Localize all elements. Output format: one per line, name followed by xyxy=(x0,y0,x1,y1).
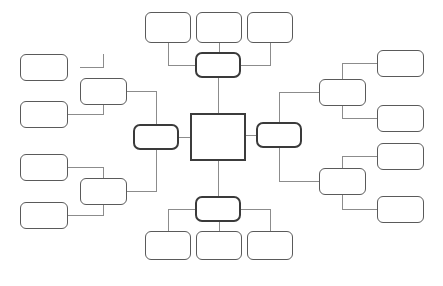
node-leaf-right-upper-2[interactable] xyxy=(377,105,424,132)
node-leaf-left-upper-1[interactable] xyxy=(20,54,68,81)
connector-branch-left-lower-to-leaf-left-lower-2 xyxy=(68,205,103,215)
node-hub-top[interactable] xyxy=(195,52,241,78)
node-branch-left-upper[interactable] xyxy=(80,78,127,105)
connector-branch-right-upper-to-leaf-right-upper-1 xyxy=(342,63,377,79)
concept-map-canvas xyxy=(0,0,443,286)
node-leaf-bottom-3[interactable] xyxy=(247,231,293,260)
node-hub-left[interactable] xyxy=(133,124,179,150)
node-leaf-top-3[interactable] xyxy=(247,12,293,43)
node-leaf-right-upper-1[interactable] xyxy=(377,50,424,77)
connector-hub-top-to-leaf-top-3 xyxy=(241,43,270,65)
connector-hub-top-to-leaf-top-1 xyxy=(168,43,195,65)
connector-branch-right-upper-to-leaf-right-upper-2 xyxy=(342,106,377,118)
connector-hub-right-to-branch-right-upper xyxy=(279,92,319,122)
node-leaf-top-1[interactable] xyxy=(145,12,191,43)
node-leaf-left-upper-2[interactable] xyxy=(20,101,68,128)
node-branch-right-upper[interactable] xyxy=(319,79,366,106)
node-leaf-bottom-2[interactable] xyxy=(196,231,242,260)
connector-branch-right-lower-to-leaf-right-lower-2 xyxy=(342,195,377,209)
node-branch-right-lower[interactable] xyxy=(319,168,366,195)
connector-hub-bottom-to-leaf-bottom-3 xyxy=(241,209,270,231)
node-leaf-left-lower-2[interactable] xyxy=(20,202,68,229)
connector-hub-right-to-branch-right-lower xyxy=(279,147,319,181)
node-leaf-left-lower-1[interactable] xyxy=(20,154,68,181)
connector-branch-right-lower-to-leaf-right-lower-1 xyxy=(342,156,377,168)
node-leaf-right-lower-1[interactable] xyxy=(377,143,424,170)
node-branch-left-lower[interactable] xyxy=(80,178,127,205)
node-leaf-top-2[interactable] xyxy=(196,12,242,43)
node-hub-right[interactable] xyxy=(256,122,302,148)
node-hub-bottom[interactable] xyxy=(195,196,241,222)
connector-branch-left-lower-to-leaf-left-lower-1 xyxy=(68,167,103,178)
connector-hub-left-to-branch-left-upper xyxy=(127,91,156,124)
connector-branch-left-upper-to-leaf-left-upper-1 xyxy=(80,54,103,67)
connector-hub-bottom-to-leaf-bottom-1 xyxy=(168,209,195,231)
connector-branch-left-upper-to-leaf-left-upper-2 xyxy=(68,105,103,114)
node-leaf-bottom-1[interactable] xyxy=(145,231,191,260)
connector-hub-left-to-branch-left-lower xyxy=(127,150,156,191)
node-center[interactable] xyxy=(190,113,246,161)
node-leaf-right-lower-2[interactable] xyxy=(377,196,424,223)
